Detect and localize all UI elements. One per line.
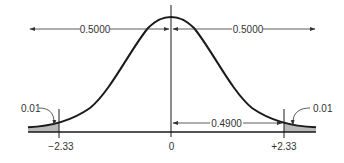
- right-half-area-label: 0.5000: [233, 24, 264, 35]
- tick-label-right-critical: +2.33: [271, 141, 297, 152]
- normal-curve: [28, 17, 316, 127]
- normal-distribution-diagram: 0.5000 0.5000 0.4900 0.01 0.01 −2.33 0 +…: [0, 0, 344, 163]
- center-area-label: 0.4900: [211, 118, 242, 129]
- tick-label-left-critical: −2.33: [48, 141, 74, 152]
- tick-label-mean: 0: [169, 141, 175, 152]
- right-tail-callout-arrow: [293, 108, 310, 125]
- left-tail-label: 0.01: [21, 103, 41, 114]
- right-tail-label: 0.01: [313, 103, 333, 114]
- left-tail-callout-arrow: [39, 108, 54, 125]
- left-half-area-label: 0.5000: [80, 24, 111, 35]
